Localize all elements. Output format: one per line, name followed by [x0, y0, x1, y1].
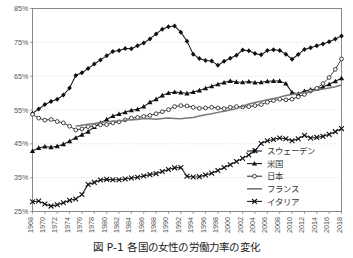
legend-swatch-marker — [253, 174, 257, 178]
legend-item-label: 日本 — [267, 171, 284, 181]
series-marker — [284, 98, 288, 102]
x-axis-tick-label: 1994 — [186, 217, 195, 233]
x-axis-tick-label: 1982 — [112, 217, 121, 233]
x-axis-tick-label: 1980 — [100, 217, 109, 233]
series-marker — [216, 106, 220, 110]
x-axis-tick-label: 1988 — [149, 217, 158, 233]
series-marker — [210, 105, 214, 109]
legend-item-label: イタリア — [267, 197, 299, 207]
series-marker — [253, 104, 257, 108]
y-axis-tick-label: 75% — [14, 38, 29, 47]
y-axis-tick-label: 45% — [14, 139, 29, 148]
x-axis-tick-label: 1986 — [137, 217, 146, 233]
x-axis-tick-label: 2010 — [285, 217, 294, 233]
x-axis-tick-label: 1978 — [87, 217, 96, 233]
series-marker — [228, 105, 232, 109]
series-marker — [191, 105, 195, 109]
x-axis-tick-label: 1968 — [26, 217, 35, 233]
x-axis-tick-label: 2004 — [248, 217, 257, 233]
series-marker — [259, 103, 263, 107]
series-marker — [37, 116, 41, 120]
series-marker — [62, 121, 66, 125]
x-axis-tick-label: 1976 — [75, 217, 84, 233]
series-marker — [43, 118, 47, 122]
x-axis-tick-label: 1996 — [199, 217, 208, 233]
x-axis-tick-label: 2018 — [335, 217, 344, 233]
series-marker — [321, 82, 325, 86]
y-axis-tick-label: 65% — [14, 72, 29, 81]
x-axis-tick-label: 2012 — [297, 217, 306, 233]
series-marker — [80, 127, 84, 131]
series-marker — [99, 123, 103, 127]
series-marker — [327, 76, 331, 80]
series-marker — [154, 112, 158, 116]
series-marker — [179, 104, 183, 108]
x-axis-tick-label: 1992 — [174, 217, 183, 233]
x-axis-tick-label: 1990 — [161, 217, 170, 233]
series-marker — [340, 57, 344, 61]
series-marker — [296, 95, 300, 99]
legend-item-label: 米国 — [267, 159, 283, 169]
x-axis-tick-label: 2006 — [260, 217, 269, 233]
series-marker — [105, 123, 109, 127]
series-marker — [160, 110, 164, 114]
x-axis-tick-label: 2008 — [273, 217, 282, 233]
x-axis-tick-label: 1970 — [38, 217, 47, 233]
y-axis-tick-label: 85% — [14, 4, 29, 13]
series-marker — [55, 120, 59, 124]
figure-caption: 図 P-1 各国の女性の労働力率の変化 — [0, 239, 353, 254]
x-axis-tick-label: 1972 — [50, 217, 59, 233]
figure-container: 25%35%45%55%65%75%85%1968197019721974197… — [0, 0, 353, 258]
y-axis-tick-label: 25% — [14, 207, 29, 216]
x-axis-tick-label: 1984 — [124, 217, 133, 233]
y-axis-tick-label: 35% — [14, 173, 29, 182]
series-marker — [31, 113, 35, 117]
series-marker — [173, 105, 177, 109]
series-marker — [49, 118, 53, 122]
series-marker — [68, 124, 72, 128]
x-axis-tick-label: 2014 — [310, 217, 319, 233]
series-marker — [204, 106, 208, 110]
series-marker — [333, 68, 337, 72]
y-axis-tick-label: 55% — [14, 106, 29, 115]
x-axis-tick-label: 1974 — [63, 217, 72, 233]
x-axis-tick-label: 2000 — [223, 217, 232, 233]
series-marker — [92, 124, 96, 128]
labor-force-participation-chart: 25%35%45%55%65%75%85%1968197019721974197… — [0, 0, 353, 258]
series-marker — [247, 105, 251, 109]
series-marker — [86, 125, 90, 129]
series-marker — [222, 107, 226, 111]
series-marker — [148, 114, 152, 118]
series-marker — [197, 106, 201, 110]
series-marker — [167, 108, 171, 112]
x-axis-tick-label: 2002 — [236, 217, 245, 233]
legend-item-label: フランス — [267, 184, 299, 194]
x-axis-tick-label: 1998 — [211, 217, 220, 233]
series-marker — [74, 128, 78, 132]
series-marker — [185, 104, 189, 108]
x-axis-tick-label: 2016 — [322, 217, 331, 233]
series-marker — [290, 97, 294, 101]
legend-item-label: スウェーデン — [267, 146, 315, 156]
